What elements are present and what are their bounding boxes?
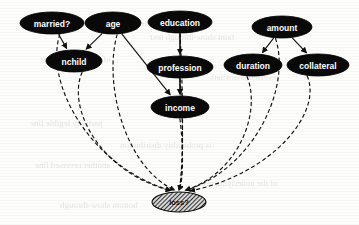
node-shape-education [148,11,212,33]
node-collateral[interactable]: collateral [287,54,349,76]
node-profession[interactable]: profession [147,56,213,78]
node-shape-loss [152,192,206,212]
node-duration[interactable]: duration [224,54,282,76]
edge-amount-to-collateral [292,38,306,53]
node-married[interactable]: married? [20,12,84,34]
edge-nchild-to-loss [78,72,170,191]
edge-age-to-nchild [86,34,102,49]
node-age[interactable]: age [85,12,141,34]
node-shape-married [20,12,84,34]
node-shape-duration [224,54,282,76]
node-income[interactable]: income [151,96,209,118]
node-shape-income [151,96,209,118]
node-shape-collateral [287,54,349,76]
node-shape-nchild [46,50,102,72]
node-shape-age [85,12,141,34]
node-loss[interactable]: loss? [152,192,206,212]
node-nchild[interactable]: nchild [46,50,102,72]
edge-amount-to-duration [262,38,273,53]
nodes-layer: married?ageeducationamountnchildprofessi… [20,11,349,212]
node-shape-profession [147,56,213,78]
node-amount[interactable]: amount [252,16,312,38]
node-education[interactable]: education [148,11,212,33]
figure-canvas: the reverse side of the scanned pagefain… [0,0,359,225]
edge-collateral-to-loss [190,76,310,191]
bayesian-network-graph: married?ageeducationamountnchildprofessi… [0,0,359,225]
node-shape-amount [252,16,312,38]
